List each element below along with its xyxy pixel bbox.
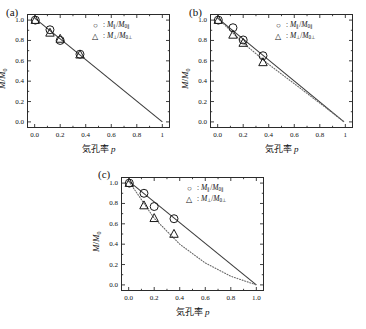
legend-label: : M⊥/M0⊥ bbox=[286, 30, 315, 43]
legend-triangle-icon: △ bbox=[184, 194, 195, 205]
y-axis-tick-label: 0.0 bbox=[187, 118, 207, 126]
x-axis-tick-label: 0.8 bbox=[315, 131, 324, 139]
x-axis-tick-label: 0.8 bbox=[132, 131, 141, 139]
legend-item: △: M⊥/M0⊥ bbox=[90, 31, 132, 42]
x-axis-tick-label: 1.0 bbox=[252, 294, 261, 302]
x-axis-tick-label: 0.4 bbox=[81, 131, 90, 139]
x-axis-tick-label: 0.2 bbox=[56, 131, 65, 139]
y-axis-tick-label: 0.6 bbox=[4, 57, 24, 65]
legend-triangle-icon: △ bbox=[90, 31, 101, 42]
y-axis-tick-label: 1.0 bbox=[98, 179, 118, 187]
x-axis-tick-label: 0.2 bbox=[239, 131, 248, 139]
y-axis-tick-label: 0.6 bbox=[187, 57, 207, 65]
x-axis-tick-label: 0.2 bbox=[150, 294, 159, 302]
panel-b: (b) 0.00.20.40.60.81.00.00.20.40.60.81気孔… bbox=[183, 0, 366, 165]
y-axis-tick-label: 1.0 bbox=[187, 16, 207, 24]
y-axis-tick-label: 0.2 bbox=[187, 98, 207, 106]
x-axis-title: 気孔率 p bbox=[265, 142, 299, 155]
x-axis-tick-label: 0.8 bbox=[226, 294, 235, 302]
x-axis-tick-label: 0.6 bbox=[107, 131, 116, 139]
legend: ○: M∥/M0∥△: M⊥/M0⊥ bbox=[273, 20, 315, 42]
data-point-circle bbox=[170, 215, 178, 223]
x-axis-tick-label: 0.4 bbox=[175, 294, 184, 302]
legend-circle-icon: ○ bbox=[90, 20, 101, 31]
x-axis-tick-label: 1 bbox=[161, 131, 165, 139]
x-axis-tick-label: 0.0 bbox=[30, 131, 39, 139]
y-axis-tick-label: 0.8 bbox=[98, 199, 118, 207]
legend-circle-icon: ○ bbox=[184, 183, 195, 194]
data-point-circle bbox=[76, 50, 84, 58]
legend-item: △: M⊥/M0⊥ bbox=[184, 194, 226, 205]
figure-root: (a) 0.00.20.40.60.81.00.00.20.40.60.81気孔… bbox=[0, 0, 366, 329]
legend-label: : M⊥/M0⊥ bbox=[103, 30, 132, 43]
y-axis-tick-label: 0.0 bbox=[4, 118, 24, 126]
y-axis-tick-label: 0.2 bbox=[4, 98, 24, 106]
x-axis-title: 気孔率 p bbox=[82, 142, 116, 155]
legend-triangle-icon: △ bbox=[273, 31, 284, 42]
legend-label: : M⊥/M0⊥ bbox=[197, 193, 226, 206]
data-point-triangle bbox=[170, 229, 178, 237]
data-point-circle bbox=[150, 203, 158, 211]
y-axis-tick-label: 0.8 bbox=[4, 36, 24, 44]
y-axis-title: M/M0 bbox=[180, 68, 191, 89]
legend-item: △: M⊥/M0⊥ bbox=[273, 31, 315, 42]
legend: ○: M∥/M0∥△: M⊥/M0⊥ bbox=[184, 183, 226, 205]
x-axis-tick-label: 0.0 bbox=[124, 294, 133, 302]
y-axis-tick-label: 0.2 bbox=[98, 261, 118, 269]
panel-c: (c) 0.00.20.40.60.81.00.00.20.40.60.81.0… bbox=[92, 163, 275, 329]
y-axis-tick-label: 1.0 bbox=[4, 16, 24, 24]
panel-a: (a) 0.00.20.40.60.81.00.00.20.40.60.81気孔… bbox=[0, 0, 183, 165]
x-axis-tick-label: 0.0 bbox=[213, 131, 222, 139]
legend: ○: M∥/M0∥△: M⊥/M0⊥ bbox=[90, 20, 132, 42]
x-axis-tick-label: 0.6 bbox=[290, 131, 299, 139]
x-axis-title: 気孔率 p bbox=[176, 305, 210, 318]
y-axis-title: M/M0 bbox=[0, 68, 8, 89]
y-axis-title: M/M0 bbox=[91, 231, 102, 252]
x-axis-tick-label: 0.4 bbox=[264, 131, 273, 139]
legend-circle-icon: ○ bbox=[273, 20, 284, 31]
x-axis-tick-label: 0.6 bbox=[201, 294, 210, 302]
x-axis-tick-label: 1 bbox=[344, 131, 348, 139]
y-axis-tick-label: 0.8 bbox=[187, 36, 207, 44]
y-axis-tick-label: 0.6 bbox=[98, 220, 118, 228]
y-axis-tick-label: 0.0 bbox=[98, 281, 118, 289]
